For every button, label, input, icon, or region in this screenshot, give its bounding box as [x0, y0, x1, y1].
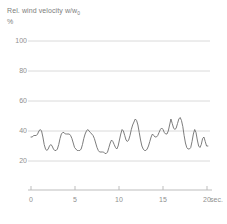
- plot-area: [0, 0, 227, 224]
- x-axis-group: [28, 186, 212, 190]
- chart-container: Rel. wind velocity w/w0 % 100 80 60 40 2…: [0, 0, 227, 224]
- wind-velocity-line: [31, 118, 208, 154]
